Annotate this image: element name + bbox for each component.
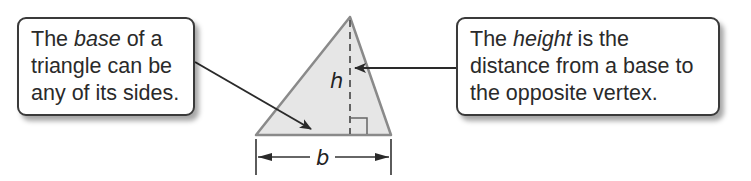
base-label: b (316, 146, 329, 170)
height-callout-line-2: distance from a base to (470, 53, 718, 80)
height-label: h (330, 69, 343, 93)
base-callout: The base of a triangle can be any of its… (17, 17, 195, 116)
base-callout-line-1: The base of a (31, 26, 193, 53)
base-callout-line-2: triangle can be (31, 53, 193, 80)
base-callout-line-3: any of its sides. (31, 80, 193, 107)
height-callout: The height is the distance from a base t… (456, 17, 720, 116)
height-callout-line-1: The height is the (470, 26, 718, 53)
triangle (256, 17, 391, 135)
height-callout-line-3: the opposite vertex. (470, 80, 718, 107)
